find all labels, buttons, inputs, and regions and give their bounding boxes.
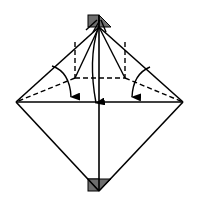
crease-lines <box>75 20 125 78</box>
left-fold-arrow-icon <box>52 66 71 97</box>
diamond-outline <box>16 15 183 191</box>
origami-diagram <box>0 0 199 209</box>
fold-arrows <box>52 28 150 103</box>
right-fold-arrow-icon <box>132 67 150 97</box>
